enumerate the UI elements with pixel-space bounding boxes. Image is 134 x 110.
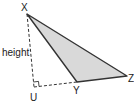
triangle-diagram: X Z Y U height: [0, 0, 134, 110]
vertex-label-x: X: [21, 2, 28, 13]
triangle-xyz: [27, 14, 127, 82]
vertex-label-u: U: [30, 92, 37, 103]
vertex-label-z: Z: [128, 73, 134, 84]
height-label: height: [2, 47, 29, 58]
base-extension-line: [34, 82, 77, 87]
vertex-label-y: Y: [73, 85, 80, 96]
